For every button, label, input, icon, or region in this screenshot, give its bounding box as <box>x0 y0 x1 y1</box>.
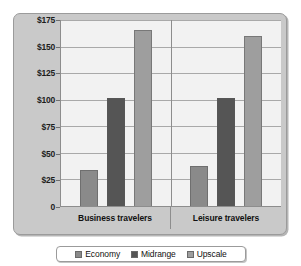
bar-midrange[interactable] <box>217 98 235 206</box>
bar-economy[interactable] <box>190 166 208 206</box>
bar-economy[interactable] <box>80 170 98 206</box>
plot-area <box>60 20 281 207</box>
x-axis: Business travelersLeisure travelers <box>60 207 281 229</box>
legend-label: Economy <box>85 249 120 259</box>
y-axis-tick-label: $125 <box>37 68 55 78</box>
legend-item-midrange[interactable]: Midrange <box>131 249 176 259</box>
bar-group-leisure-travelers <box>171 20 281 206</box>
x-axis-category-label: Business travelers <box>60 207 170 229</box>
legend-label: Upscale <box>197 249 227 259</box>
y-axis-tick-label: 0 <box>50 202 55 212</box>
y-axis-tick-label: $75 <box>41 122 55 132</box>
y-axis-tick-label: $25 <box>41 175 55 185</box>
y-axis-tick-label: $150 <box>37 42 55 52</box>
x-axis-category-label: Leisure travelers <box>170 207 281 229</box>
bar-group-business-travelers <box>61 20 171 206</box>
legend-swatch-icon <box>187 251 194 258</box>
legend-item-upscale[interactable]: Upscale <box>187 249 227 259</box>
chart-legend: EconomyMidrangeUpscale <box>56 246 246 262</box>
bar-upscale[interactable] <box>134 30 152 206</box>
legend-label: Midrange <box>141 249 176 259</box>
y-axis-tick-label: $100 <box>37 95 55 105</box>
y-axis-tick-label: $175 <box>37 15 55 25</box>
bar-midrange[interactable] <box>107 98 125 206</box>
chart-panel: 0$25$50$75$100$125$150$175 Business trav… <box>13 13 287 235</box>
y-axis: 0$25$50$75$100$125$150$175 <box>14 20 60 207</box>
bar-upscale[interactable] <box>244 36 262 206</box>
legend-swatch-icon <box>75 251 82 258</box>
legend-item-economy[interactable]: Economy <box>75 249 120 259</box>
legend-swatch-icon <box>131 251 138 258</box>
y-axis-tick-label: $50 <box>41 149 55 159</box>
